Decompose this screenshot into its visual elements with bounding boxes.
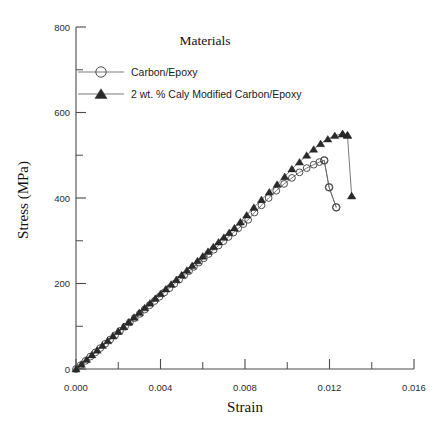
- chart-legend: Materials Carbon/Epoxy2 wt. % Caly Modif…: [78, 33, 302, 100]
- x-axis-title: Strain: [227, 399, 263, 415]
- legend-title: Materials: [180, 33, 231, 48]
- data-marker-triangle: [317, 140, 325, 147]
- x-tick-label: 0.016: [402, 382, 426, 393]
- y-tick-label: 0: [65, 364, 70, 375]
- chart-canvas: 0200400600800 0.0000.0040.0080.0120.016 …: [0, 0, 441, 425]
- y-tick-label: 600: [54, 107, 70, 118]
- failure-tail-carbon-epoxy: [320, 157, 340, 212]
- axes: [76, 27, 414, 369]
- y-tick-label: 800: [54, 22, 70, 33]
- data-series-group: [72, 130, 356, 372]
- legend-entry-1: Carbon/Epoxy: [78, 66, 198, 78]
- x-tick-label: 0.008: [233, 382, 257, 393]
- failure-tail-clay-modified: [338, 130, 356, 199]
- y-tick-label: 400: [54, 193, 70, 204]
- legend-entry-label: 2 wt. % Caly Modified Carbon/Epoxy: [131, 88, 302, 100]
- x-tick-label: 0.004: [149, 382, 173, 393]
- failure-tail-path: [343, 134, 352, 196]
- y-axis-ticks: 0200400600800: [54, 22, 86, 375]
- x-axis-ticks: 0.0000.0040.0080.0120.016: [64, 359, 426, 393]
- y-axis-title: Stress (MPa): [15, 161, 32, 239]
- series-1: [73, 157, 340, 372]
- data-marker-triangle: [347, 192, 356, 199]
- x-tick-label: 0.000: [64, 382, 88, 393]
- y-tick-label: 200: [54, 278, 70, 289]
- x-tick-label: 0.012: [318, 382, 342, 393]
- stress-strain-chart: 0200400600800 0.0000.0040.0080.0120.016 …: [0, 0, 441, 425]
- legend-entry-label: Carbon/Epoxy: [131, 66, 198, 78]
- legend-entry-2: 2 wt. % Caly Modified Carbon/Epoxy: [78, 88, 302, 100]
